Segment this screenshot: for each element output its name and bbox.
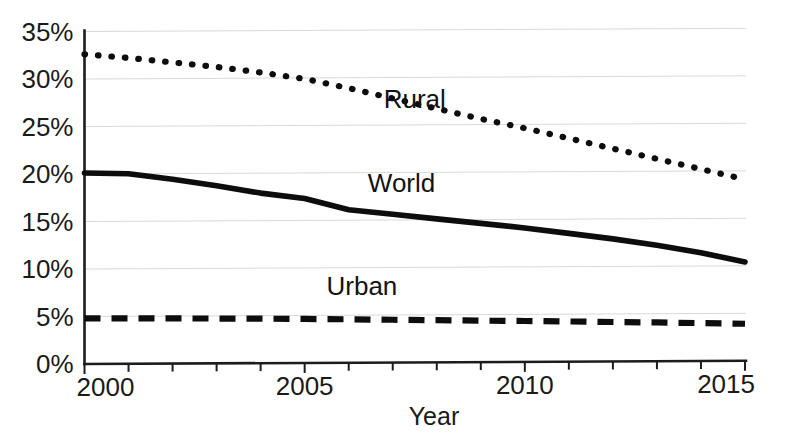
y-tick-label-10pct: 10% xyxy=(21,254,73,284)
series-label-world: World xyxy=(368,168,435,198)
chart-canvas: 0%5%10%15%20%25%30%35% 2000200520102015 … xyxy=(0,0,795,448)
chart-figure: 0%5%10%15%20%25%30%35% 2000200520102015 … xyxy=(0,0,795,448)
series-label-rural: Rural xyxy=(384,84,446,114)
series-label-urban: Urban xyxy=(326,271,397,301)
y-tick-label-25pct: 25% xyxy=(21,112,73,142)
y-tick-label-20pct: 20% xyxy=(21,159,73,189)
x-tick-label-2000: 2000 xyxy=(77,372,135,402)
y-tick-label-15pct: 15% xyxy=(21,207,73,237)
y-tick-label-5pct: 5% xyxy=(36,302,74,332)
line-chart-svg: 0%5%10%15%20%25%30%35% 2000200520102015 … xyxy=(0,0,795,448)
y-tick-label-30pct: 30% xyxy=(21,64,73,94)
x-tick-label-2005: 2005 xyxy=(276,371,334,401)
x-tick-label-2010: 2010 xyxy=(496,370,554,400)
y-tick-label-35pct: 35% xyxy=(21,17,73,47)
y-tick-label-0pct: 0% xyxy=(36,349,74,379)
x-tick-label-2015: 2015 xyxy=(697,369,755,399)
x-axis-title: Year xyxy=(409,402,460,430)
